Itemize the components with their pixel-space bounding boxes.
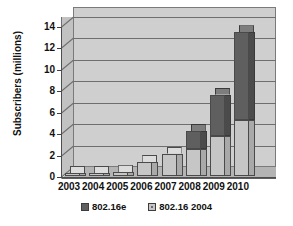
bar-segment-802-16-2004[interactable] xyxy=(210,136,225,176)
bar-segment-802-16-2004[interactable] xyxy=(137,162,152,176)
bar-face-top xyxy=(215,88,230,95)
x-axis-tick-labels: 20032004200520062007200820092010 xyxy=(56,181,293,195)
y-axis-title: Subscribers (millions) xyxy=(12,9,23,159)
plot-area xyxy=(61,17,276,177)
y-axis-tick-label: 8 xyxy=(33,86,55,96)
bar-segment-802-16e[interactable] xyxy=(186,131,201,149)
chart-legend: 802.16e802.16 2004 xyxy=(0,201,293,212)
legend-label: 802.16 2004 xyxy=(159,201,212,212)
bar-face-front xyxy=(186,149,201,176)
y-axis-tick-label: 0 xyxy=(33,172,55,182)
bar-segment-802-16-2004[interactable] xyxy=(162,154,177,177)
y-axis-tick-label: 12 xyxy=(33,43,55,53)
bar-face-front xyxy=(186,131,201,149)
bar-face-side xyxy=(152,162,158,176)
bar-face-front xyxy=(234,120,249,176)
y-axis-tick-label: 6 xyxy=(33,108,55,118)
light-swatch-icon xyxy=(148,203,156,211)
bar-face-top xyxy=(118,165,133,172)
bar-face-top xyxy=(191,124,206,131)
bar-face-side xyxy=(177,154,183,177)
bar-column[interactable] xyxy=(162,154,177,177)
bar-face-side xyxy=(128,172,134,176)
bar-face-side xyxy=(201,131,207,149)
bar-segment-802-16e[interactable] xyxy=(234,32,249,120)
bar-face-top xyxy=(70,166,85,173)
bar-face-side xyxy=(80,173,86,176)
bar-face-top xyxy=(142,155,157,162)
bar-segment-802-16e[interactable] xyxy=(210,95,225,137)
x-axis-line xyxy=(61,177,276,178)
legend-label: 802.16e xyxy=(92,201,126,212)
y-axis-tick-label: 4 xyxy=(33,129,55,139)
bar-segment-802-16-2004[interactable] xyxy=(113,172,128,176)
legend-item[interactable]: 802.16e xyxy=(81,201,126,212)
bar-face-top xyxy=(167,147,182,154)
y-axis-line xyxy=(61,27,62,177)
bar-face-front xyxy=(210,95,225,137)
dark-swatch-icon xyxy=(81,203,89,211)
y-axis-tick-label: 10 xyxy=(33,65,55,75)
bar-face-side xyxy=(249,120,255,176)
bar-segment-802-16-2004[interactable] xyxy=(89,173,104,176)
bar-segment-802-16-2004[interactable] xyxy=(186,149,201,176)
bar-face-front xyxy=(234,32,249,120)
bar-column[interactable] xyxy=(137,162,152,176)
bar-face-top xyxy=(239,25,254,32)
bar-column[interactable] xyxy=(186,131,201,176)
bar-face-front xyxy=(65,173,80,176)
bar-face-side xyxy=(249,32,255,120)
bar-face-side xyxy=(225,136,231,176)
bar-chart: Subscribers (millions) 02468101214 20032… xyxy=(0,0,293,226)
bar-column[interactable] xyxy=(113,172,128,176)
bar-column[interactable] xyxy=(234,32,249,176)
bar-face-side xyxy=(104,173,110,176)
y-axis-tick-label: 14 xyxy=(33,22,55,32)
bar-face-front xyxy=(162,154,177,177)
bar-face-front xyxy=(89,173,104,176)
gridline xyxy=(73,17,276,18)
bar-face-front xyxy=(113,172,128,176)
bar-column[interactable] xyxy=(65,173,80,176)
y-axis-tick-label: 2 xyxy=(33,151,55,161)
bar-column[interactable] xyxy=(89,173,104,176)
legend-item[interactable]: 802.16 2004 xyxy=(148,201,212,212)
bar-face-front xyxy=(210,136,225,176)
bar-segment-802-16-2004[interactable] xyxy=(65,173,80,176)
bar-segment-802-16-2004[interactable] xyxy=(234,120,249,176)
bar-column[interactable] xyxy=(210,95,225,176)
bar-face-side xyxy=(225,95,231,137)
bar-face-front xyxy=(137,162,152,176)
bar-face-top xyxy=(94,166,109,173)
bar-face-side xyxy=(201,149,207,176)
x-axis-tick-label: 2010 xyxy=(223,181,253,192)
